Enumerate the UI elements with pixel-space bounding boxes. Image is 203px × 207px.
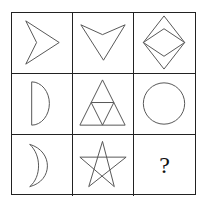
question-mark: ?: [159, 152, 170, 179]
crescent-shape: [12, 135, 72, 196]
cell-r1c3: [134, 13, 195, 74]
cell-r2c2: [73, 74, 134, 135]
cell-r3c1: [12, 135, 73, 196]
pentagram-shape: [73, 135, 133, 196]
nested-diamonds-shape: [134, 13, 195, 73]
cell-r2c1: [12, 74, 73, 135]
cell-r1c2: [73, 13, 134, 74]
cell-r3c3-answer: ?: [134, 135, 195, 196]
arrowhead-right-shape: [12, 13, 72, 73]
cell-r1c1: [12, 13, 73, 74]
arrowhead-down-shape: [73, 13, 133, 73]
puzzle-grid: ?: [11, 12, 196, 195]
subdivided-triangle-shape: [73, 74, 133, 134]
half-circle-shape: [12, 74, 72, 134]
cell-r2c3: [134, 74, 195, 135]
cell-r3c2: [73, 135, 134, 196]
circle-shape: [134, 74, 195, 134]
